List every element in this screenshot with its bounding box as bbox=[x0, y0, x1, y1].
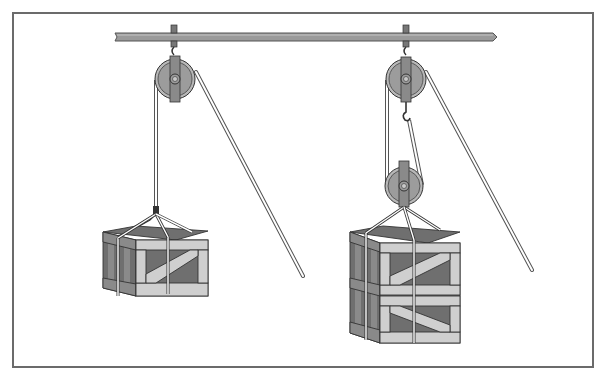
diagram-frame bbox=[13, 13, 593, 367]
pulley-diagram: Pulley systems: single fixed pulley vs. … bbox=[0, 0, 610, 380]
left-shackle bbox=[153, 206, 159, 214]
ceiling-beam bbox=[115, 33, 497, 41]
